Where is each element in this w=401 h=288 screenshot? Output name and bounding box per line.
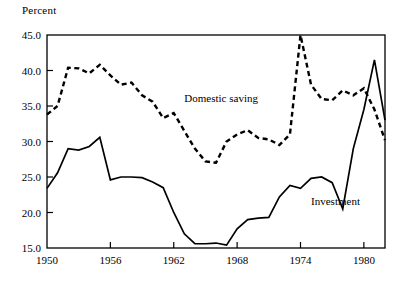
series-annotations: Domestic savingInvestment [184, 92, 360, 208]
y-tick-label: 25.0 [22, 171, 42, 183]
x-tick-label: 1980 [353, 254, 376, 266]
x-tick-label: 1950 [36, 254, 59, 266]
y-tick-label: 20.0 [22, 207, 42, 219]
y-tick-label: 15.0 [22, 242, 42, 254]
annotation-domestic-saving: Domestic saving [184, 92, 258, 104]
chart-figure: Percent 45.040.035.030.025.020.015.0 195… [0, 0, 401, 288]
annotation-investment: Investment [311, 195, 360, 207]
series-line-investment [47, 60, 385, 245]
y-tick-label: 40.0 [22, 65, 42, 77]
x-tick-label: 1956 [99, 254, 122, 266]
y-tick-label: 45.0 [22, 29, 42, 41]
y-tick-label: 35.0 [22, 100, 42, 112]
x-tick-label: 1974 [290, 254, 313, 266]
x-tick-label: 1962 [163, 254, 185, 266]
line-chart-plot: 45.040.035.030.025.020.015.0 19501956196… [0, 0, 401, 288]
x-axis-tick-labels: 195019561962196819741980 [36, 254, 375, 266]
y-tick-label: 30.0 [22, 136, 42, 148]
x-tick-label: 1968 [226, 254, 249, 266]
y-axis-tick-labels: 45.040.035.030.025.020.015.0 [22, 29, 42, 254]
data-series-group [47, 35, 385, 245]
